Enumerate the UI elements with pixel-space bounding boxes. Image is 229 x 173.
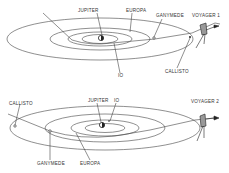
label-spacecraft-1: VOYAGER 1 [192,14,220,19]
label-jupiter-2: JUPITER [88,99,109,104]
callisto-icon-1 [189,36,191,38]
label-ganymede-2: GANYMEDE [37,162,65,167]
panel2-orbits [10,106,200,150]
voyager2-spacecraft-icon [197,114,219,141]
label-io-2: IO [114,99,119,104]
label-spacecraft-2: VOYAGER 2 [191,100,219,105]
io-icon-2 [108,120,110,122]
diagram-canvas [0,0,229,173]
label-europa-2: EUROPA [80,162,100,167]
label-jupiter-1: JUPITER [78,9,99,14]
voyager2-trajectory [8,114,215,137]
label-callisto-1: CALLISTO [165,70,189,75]
label-europa-1: EUROPA [126,9,146,14]
io-orbit-2 [85,124,125,133]
label-callisto-2: CALLISTO [9,102,33,107]
callisto-orbit-2 [10,106,200,150]
ganymede-icon-2 [49,130,51,132]
ganymede-icon-1 [153,37,155,39]
callisto-icon-2 [14,125,16,127]
label-io-1: IO [118,74,123,79]
voyager1-spacecraft-icon [196,23,219,48]
label-ganymede-1: GANYMEDE [156,14,184,19]
ganymede-orbit-2 [45,114,165,142]
